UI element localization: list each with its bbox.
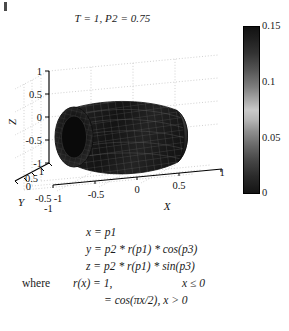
x-tick-3: 0.5: [172, 180, 185, 191]
eq1-rhs: p1: [105, 226, 117, 238]
r-definition-1: r(x) = 1,: [73, 277, 112, 289]
equation-y: y = p2 * r(p1) * cos(p3): [86, 243, 197, 255]
equation-row-2: y = p2 * r(p1) * cos(p3): [0, 243, 289, 260]
figure-root: T = 1, P2 = 0.75: [0, 0, 289, 331]
equation-z: z = p2 * r(p1) * sin(p3): [86, 260, 195, 272]
eq3-lhs: z: [86, 260, 90, 272]
y-tick-2: 0: [26, 181, 31, 192]
r-definition-2: = cos(πx/2), x > 0: [104, 294, 188, 306]
equations-block: x = p1 y = p2 * r(p1) * cos(p3) z = p2 *…: [0, 226, 289, 311]
title-text: T = 1, P2 = 0.75: [75, 12, 151, 24]
z-tick-1: 0.5: [29, 89, 42, 100]
x-tick-1: -0.5: [88, 189, 105, 200]
equation-x: x = p1: [86, 226, 116, 238]
equation-row-3: z = p2 * r(p1) * sin(p3): [0, 260, 289, 277]
plot-area-3d: 1 0.5 0 -0.5 -1 Z 1 0.5 0 -0.5 -1 Y: [0, 30, 228, 215]
z-axis-label: Z: [6, 118, 18, 125]
y-tick-0: 1: [39, 166, 44, 177]
eq2-rhs: p2 * r(p1) * cos(p3): [105, 243, 198, 255]
colorbar-tick-1: 0.1: [262, 76, 275, 87]
z-tick-0: 1: [37, 66, 42, 77]
x-axis-label: X: [163, 200, 172, 212]
z-axis-ticks: 1 0.5 0 -0.5 -1: [25, 66, 49, 169]
eq3-rhs: p2 * r(p1) * sin(p3): [104, 260, 195, 272]
y-tick-4: -1: [44, 203, 53, 214]
x-tick-4: 1: [219, 167, 224, 178]
z-tick-2: 0: [37, 112, 42, 123]
tube-inner-bore: [62, 116, 87, 158]
colorbar-tick-2: 0.05: [262, 132, 280, 143]
axes3d-svg: 1 0.5 0 -0.5 -1 Z 1 0.5 0 -0.5 -1 Y: [0, 30, 228, 215]
r-condition-1: x ≤ 0: [182, 277, 205, 289]
surface-tube: [53, 92, 200, 184]
colorbar-ticks: 0.15 0.1 0.05 0: [262, 26, 289, 198]
z-tick-3: -0.5: [25, 135, 42, 146]
colorbar-gradient: [244, 27, 259, 193]
equation-row-1: x = p1: [0, 226, 289, 243]
eq2-lhs: y: [86, 243, 91, 255]
x-tick-0: -1: [54, 193, 63, 204]
y-axis-label: Y: [18, 196, 26, 208]
colorbar-tick-0: 0.15: [262, 20, 280, 31]
r-def2-expr: = cos(πx/2),: [104, 294, 160, 306]
colorbar: [243, 26, 260, 194]
eq1-lhs: x: [86, 226, 91, 238]
where-keyword: where: [22, 277, 50, 289]
equation-row-4: where r(x) = 1, x ≤ 0: [0, 277, 289, 294]
eq3-op: =: [93, 260, 101, 272]
colorbar-tick-3: 0: [262, 187, 267, 198]
eq2-op: =: [94, 243, 102, 255]
scan-artifact: [4, 2, 7, 11]
plot-title: T = 1, P2 = 0.75: [0, 12, 225, 24]
equation-row-5: = cos(πx/2), x > 0: [0, 294, 289, 311]
x-tick-2: 0: [134, 184, 139, 195]
eq1-op: =: [94, 226, 102, 238]
r-condition-2: x > 0: [163, 294, 187, 306]
